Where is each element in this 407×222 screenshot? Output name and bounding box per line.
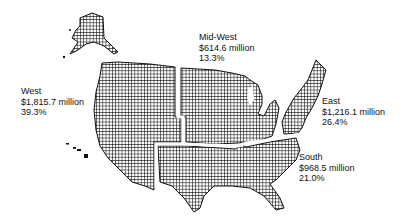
region-value: $1,815.7 million: [21, 97, 84, 108]
region-midwest-shape: [181, 68, 279, 144]
region-percent: 13.3%: [199, 53, 255, 64]
region-name: East: [322, 96, 385, 107]
region-label-south: South $968.5 million 21.0%: [299, 152, 355, 184]
region-percent: 21.0%: [299, 173, 355, 184]
region-label-midwest: Mid-West $614.6 million 13.3%: [199, 32, 255, 64]
region-label-east: East $1,216.1 million 26.4%: [322, 96, 385, 128]
hawaii-shape: [66, 143, 88, 158]
region-name: Mid-West: [199, 32, 255, 43]
region-percent: 26.4%: [322, 117, 385, 128]
region-label-west: West $1,815.7 million 39.3%: [21, 86, 84, 118]
region-name: South: [299, 152, 355, 163]
region-value: $614.6 million: [199, 43, 255, 54]
region-south-shape: [158, 138, 300, 212]
region-value: $968.5 million: [299, 163, 355, 174]
region-name: West: [21, 86, 84, 97]
region-east-shape: [282, 60, 326, 134]
region-value: $1,216.1 million: [322, 107, 385, 118]
alaska-shape: [70, 13, 118, 54]
region-percent: 39.3%: [21, 107, 84, 118]
